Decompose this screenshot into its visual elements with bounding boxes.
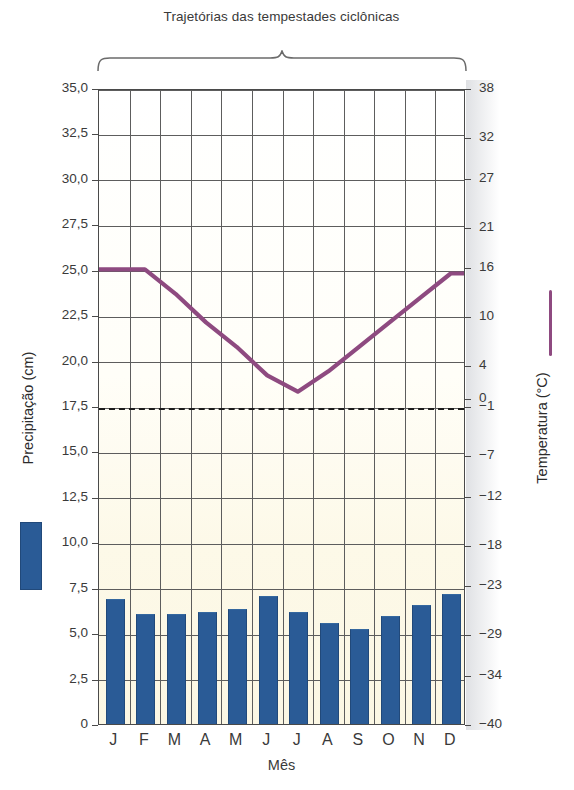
y-axis-right-tick-mark <box>465 399 471 400</box>
y-axis-left-tick-mark <box>92 271 98 272</box>
y-axis-right-tick-mark <box>465 407 471 408</box>
y-axis-left-tick-mark <box>92 134 98 135</box>
plot-area <box>98 89 465 725</box>
y-axis-right-tick-mark <box>465 89 471 90</box>
freezing-reference-line <box>99 408 464 410</box>
y-axis-right-tick-label: −34 <box>479 667 502 682</box>
y-axis-right-tick-mark <box>465 586 471 587</box>
precipitation-legend-swatch <box>20 522 42 590</box>
y-axis-right-tick-label: −12 <box>479 488 502 503</box>
y-axis-left-tick-label: 12,5 <box>28 489 88 504</box>
x-axis-tick-label: A <box>312 731 343 749</box>
x-axis-tick-label: J <box>98 731 129 749</box>
climograph-figure: Trajetórias das tempestades ciclônicas 0… <box>0 0 574 790</box>
y-axis-right-tick-label: 0 <box>479 390 487 405</box>
y-axis-right-tick-mark <box>465 366 471 367</box>
y-axis-right-tick-mark <box>465 317 471 318</box>
x-axis-tick-label: M <box>220 731 251 749</box>
y-axis-right-tick-label: 16 <box>479 259 494 274</box>
y-axis-right-tick-mark <box>465 676 471 677</box>
y-axis-right-tick-mark <box>465 497 471 498</box>
y-axis-left-tick-label: 15,0 <box>28 443 88 458</box>
y-axis-left-tick-mark <box>92 543 98 544</box>
x-axis-title: Mês <box>98 757 465 773</box>
y-axis-left-tick-label: 0 <box>28 716 88 731</box>
y-axis-right-tick-mark <box>465 228 471 229</box>
y-axis-right-tick-label: −18 <box>479 537 502 552</box>
y-axis-right-tick-label: 21 <box>479 219 494 234</box>
y-axis-left-tick-label: 27,5 <box>28 216 88 231</box>
y-axis-right-tick-label: −29 <box>479 626 502 641</box>
x-axis-tick-label: O <box>373 731 404 749</box>
y-axis-right-tick-label: 27 <box>479 170 494 185</box>
y-axis-left-tick-mark <box>92 589 98 590</box>
y-axis-left-tick-mark <box>92 498 98 499</box>
y-axis-right-tick-mark <box>465 725 471 726</box>
y-axis-right-tick-label: −40 <box>479 716 502 731</box>
x-axis-tick-label: J <box>281 731 312 749</box>
y-axis-left-title: Precipitação (cm) <box>20 318 36 498</box>
y-axis-left-tick-mark <box>92 89 98 90</box>
y-axis-left-tick-label: 30,0 <box>28 171 88 186</box>
y-axis-right-tick-label: 4 <box>479 357 487 372</box>
x-axis-tick-label: M <box>159 731 190 749</box>
y-axis-left-tick-label: 35,0 <box>28 80 88 95</box>
y-axis-left-tick-mark <box>92 316 98 317</box>
y-axis-left-tick-mark <box>92 180 98 181</box>
chart-title: Trajetórias das tempestades ciclônicas <box>98 8 465 25</box>
y-axis-left-tick-label: 22,5 <box>28 307 88 322</box>
y-axis-right-tick-mark <box>465 456 471 457</box>
y-axis-right-tick-label: 38 <box>479 80 494 95</box>
y-axis-right-title: Temperatura (°C) <box>534 338 550 518</box>
y-axis-right-tick-label: 10 <box>479 308 494 323</box>
y-axis-left-tick-mark <box>92 362 98 363</box>
y-axis-left-tick-mark <box>92 225 98 226</box>
y-axis-left-tick-mark <box>92 680 98 681</box>
y-axis-left-tick-label: 25,0 <box>28 262 88 277</box>
y-axis-left-tick-label: 32,5 <box>28 125 88 140</box>
y-axis-left-tick-mark <box>92 634 98 635</box>
y-axis-right-tick-label: −23 <box>479 577 502 592</box>
x-axis-tick-label: D <box>434 731 465 749</box>
y-axis-left-tick-mark <box>92 725 98 726</box>
y-axis-right-tick-mark <box>465 546 471 547</box>
y-axis-right-tick-label: 32 <box>479 129 494 144</box>
y-axis-left-tick-label: 5,0 <box>28 625 88 640</box>
y-axis-right-tick-label: −7 <box>479 447 494 462</box>
y-axis-left-tick-label: 17,5 <box>28 398 88 413</box>
temperature-legend-swatch <box>549 290 552 356</box>
y-axis-right-tick-mark <box>465 179 471 180</box>
x-axis-tick-label: A <box>190 731 221 749</box>
x-axis-tick-label: S <box>342 731 373 749</box>
x-axis-tick-label: J <box>251 731 282 749</box>
x-axis-tick-label: N <box>404 731 435 749</box>
y-axis-left-tick-mark <box>92 452 98 453</box>
y-axis-right-tick-mark <box>465 635 471 636</box>
y-axis-right-tick-mark <box>465 138 471 139</box>
y-axis-right-tick-mark <box>465 268 471 269</box>
x-axis-tick-label: F <box>128 731 159 749</box>
title-brace-icon <box>96 50 468 72</box>
y-axis-left-tick-mark <box>92 407 98 408</box>
y-axis-left-tick-label: 20,0 <box>28 353 88 368</box>
y-axis-left-tick-label: 2,5 <box>28 671 88 686</box>
